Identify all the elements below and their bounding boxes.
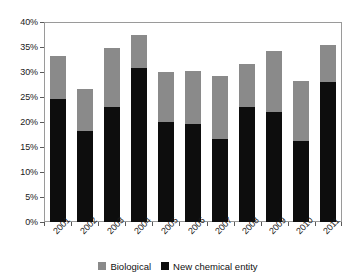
x-axis-tick-mark	[71, 222, 72, 226]
bar-group	[104, 22, 120, 222]
y-axis-tick-label: 30%	[0, 67, 38, 77]
bar-segment	[131, 35, 147, 68]
bar-segment	[77, 131, 93, 222]
bar-group	[50, 22, 66, 222]
bar-segment	[185, 124, 201, 222]
bar-segment	[185, 71, 201, 124]
bar-segment	[320, 45, 336, 82]
bar-segment	[293, 81, 309, 141]
bar-segment	[239, 107, 255, 222]
x-axis-tick-mark	[152, 222, 153, 226]
bar-group	[320, 22, 336, 222]
x-axis-tick-mark	[234, 222, 235, 226]
bar-group	[185, 22, 201, 222]
y-axis-tick-label: 5%	[0, 192, 38, 202]
y-axis-tick-label: 15%	[0, 142, 38, 152]
x-axis-tick-mark	[125, 222, 126, 226]
x-axis-tick-mark	[288, 222, 289, 226]
bar-group	[293, 22, 309, 222]
bar-group	[158, 22, 174, 222]
legend-item: Biological	[98, 261, 151, 272]
bar-segment	[293, 141, 309, 222]
bars-container	[44, 22, 342, 222]
bar-group	[266, 22, 282, 222]
x-axis-tick-mark	[341, 222, 342, 226]
x-axis-tick-mark	[315, 222, 316, 226]
legend-swatch-icon	[98, 262, 106, 270]
bar-segment	[158, 72, 174, 122]
x-axis-tick-mark	[98, 222, 99, 226]
bar-segment	[131, 68, 147, 222]
y-axis-tick-label: 20%	[0, 117, 38, 127]
bar-group	[212, 22, 228, 222]
y-axis-tick-label: 40%	[0, 17, 38, 27]
legend-label: Biological	[110, 261, 151, 272]
y-axis-tick-label: 10%	[0, 167, 38, 177]
legend-item: New chemical entity	[161, 261, 257, 272]
x-axis: 2001200220032004200520062007200820092010…	[44, 222, 342, 262]
bar-segment	[212, 76, 228, 139]
legend-label: New chemical entity	[173, 261, 257, 272]
bar-segment	[320, 82, 336, 222]
x-axis-tick-mark	[207, 222, 208, 226]
y-axis: 0%5%10%15%20%25%30%35%40%	[0, 14, 44, 230]
bar-group	[131, 22, 147, 222]
y-axis-tick-label: 0%	[0, 217, 38, 227]
bar-segment	[239, 64, 255, 107]
bar-segment	[50, 99, 66, 222]
stacked-bar-chart: 0%5%10%15%20%25%30%35%40% 20012002200320…	[0, 0, 356, 278]
bar-segment	[266, 112, 282, 222]
x-axis-tick-mark	[261, 222, 262, 226]
x-axis-tick-mark	[44, 222, 45, 226]
bar-segment	[158, 122, 174, 222]
bar-segment	[50, 56, 66, 100]
bar-group	[77, 22, 93, 222]
bar-segment	[104, 107, 120, 222]
bar-segment	[212, 139, 228, 222]
bar-group	[239, 22, 255, 222]
bar-segment	[77, 89, 93, 131]
chart-legend: BiologicalNew chemical entity	[0, 258, 356, 274]
x-axis-tick-mark	[179, 222, 180, 226]
y-axis-tick-label: 25%	[0, 92, 38, 102]
bar-segment	[266, 51, 282, 112]
y-axis-tick-label: 35%	[0, 42, 38, 52]
legend-swatch-icon	[161, 262, 169, 270]
bar-segment	[104, 48, 120, 107]
